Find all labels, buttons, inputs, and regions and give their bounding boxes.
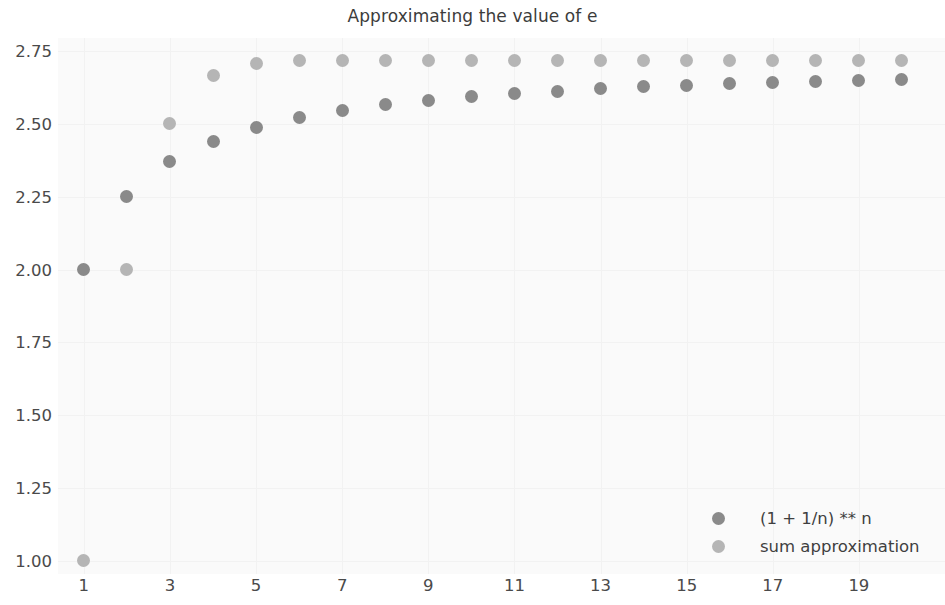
data-point [637, 80, 650, 93]
data-point [508, 54, 521, 67]
data-point [680, 79, 693, 92]
data-point [465, 54, 478, 67]
data-point [723, 54, 736, 67]
gridline-horizontal [58, 342, 945, 343]
data-point [852, 74, 865, 87]
x-axis-tick-label: 11 [494, 576, 534, 595]
data-point [895, 73, 908, 86]
data-point [379, 54, 392, 67]
x-axis: 135791113151719 [58, 576, 945, 602]
gridline-horizontal [58, 197, 945, 198]
data-point [723, 77, 736, 90]
y-axis-tick-label: 1.75 [0, 333, 52, 352]
gridline-vertical [514, 38, 515, 574]
data-point [207, 135, 220, 148]
data-point [293, 111, 306, 124]
gridline-vertical [342, 38, 343, 574]
gridline-horizontal [58, 415, 945, 416]
x-axis-tick-label: 19 [839, 576, 879, 595]
gridline-horizontal [58, 488, 945, 489]
x-axis-tick-label: 7 [322, 576, 362, 595]
gridline-horizontal [58, 51, 945, 52]
data-point [336, 54, 349, 67]
data-point [551, 85, 564, 98]
data-point [637, 54, 650, 67]
y-axis-tick-label: 2.50 [0, 114, 52, 133]
data-point [508, 87, 521, 100]
y-axis-tick-label: 1.50 [0, 406, 52, 425]
y-axis-tick-label: 2.00 [0, 260, 52, 279]
data-point [293, 54, 306, 67]
chart-page: Approximating the value of e 1.001.251.5… [0, 0, 945, 605]
plot-area [58, 38, 945, 574]
data-point [163, 155, 176, 168]
y-axis-tick-label: 1.00 [0, 551, 52, 570]
gridline-vertical [773, 38, 774, 574]
data-point [809, 75, 822, 88]
data-point [852, 54, 865, 67]
y-axis-tick-label: 2.75 [0, 42, 52, 61]
data-point [379, 98, 392, 111]
x-axis-tick-label: 9 [408, 576, 448, 595]
gridline-vertical [859, 38, 860, 574]
x-axis-tick-label: 15 [667, 576, 707, 595]
data-point [163, 117, 176, 130]
legend: (1 + 1/n) ** n sum approximation [712, 502, 912, 564]
x-axis-tick-label: 13 [581, 576, 621, 595]
data-point [422, 54, 435, 67]
x-axis-tick-label: 3 [150, 576, 190, 595]
data-point [895, 54, 908, 67]
x-axis-tick-label: 5 [236, 576, 276, 595]
gridline-horizontal [58, 270, 945, 271]
data-point [766, 54, 779, 67]
data-point [594, 82, 607, 95]
gridline-horizontal [58, 124, 945, 125]
data-point [680, 54, 693, 67]
page-title: Approximating the value of e [0, 6, 945, 26]
gridline-vertical [256, 38, 257, 574]
data-point [120, 190, 133, 203]
data-point [207, 69, 220, 82]
gridline-vertical [428, 38, 429, 574]
data-point [77, 554, 90, 567]
data-point [77, 263, 90, 276]
legend-label: (1 + 1/n) ** n [760, 509, 872, 528]
data-point [465, 90, 478, 103]
data-point [336, 104, 349, 117]
gridline-vertical [601, 38, 602, 574]
data-point [250, 57, 263, 70]
legend-marker-circle-icon [712, 512, 725, 525]
data-point [594, 54, 607, 67]
y-axis-tick-label: 2.25 [0, 187, 52, 206]
data-point [551, 54, 564, 67]
legend-marker-circle-icon [712, 540, 725, 553]
legend-entry-0[interactable]: (1 + 1/n) ** n [712, 504, 872, 532]
gridline-vertical [84, 38, 85, 574]
gridline-vertical [687, 38, 688, 574]
data-point [766, 76, 779, 89]
data-point [422, 94, 435, 107]
data-point [809, 54, 822, 67]
data-point [250, 121, 263, 134]
x-axis-tick-label: 17 [753, 576, 793, 595]
y-axis-tick-label: 1.25 [0, 479, 52, 498]
x-axis-tick-label: 1 [64, 576, 104, 595]
legend-label: sum approximation [760, 537, 920, 556]
y-axis: 1.001.251.501.752.002.252.502.75 [0, 38, 52, 574]
legend-entry-1[interactable]: sum approximation [712, 532, 920, 560]
data-point [120, 263, 133, 276]
